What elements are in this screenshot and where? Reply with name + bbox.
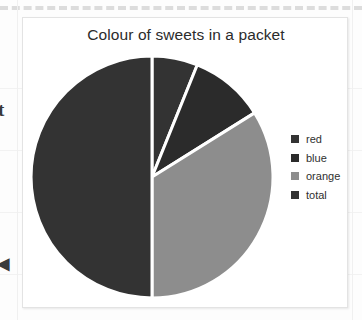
pie-slice-total[interactable] [31, 56, 152, 298]
legend-label: total [306, 189, 327, 201]
dashed-separator-rule [0, 6, 362, 10]
legend-swatch-total [291, 191, 299, 199]
legend-swatch-orange [291, 172, 299, 180]
margin-letter-glyph: t [0, 100, 4, 119]
legend-item-red[interactable]: red [291, 130, 348, 149]
pie-chart-plot-area [31, 56, 273, 302]
legend-item-total[interactable]: total [291, 186, 348, 205]
faint-margin-rule [17, 0, 18, 320]
chart-legend: redblueorangetotal [291, 130, 348, 204]
legend-label: blue [306, 152, 327, 164]
margin-arrow-icon: ◀ [0, 256, 9, 272]
legend-item-orange[interactable]: orange [291, 167, 348, 186]
legend-swatch-red [291, 135, 299, 143]
legend-swatch-blue [291, 154, 299, 162]
chart-title: Colour of sweets in a packet [23, 26, 348, 44]
pie-slices [31, 56, 273, 298]
legend-item-blue[interactable]: blue [291, 149, 348, 168]
pie-chart-panel: Colour of sweets in a packet redblueoran… [22, 17, 348, 308]
faint-margin-rule [352, 0, 353, 320]
pie-chart-svg [31, 56, 273, 302]
legend-label: orange [306, 170, 340, 182]
legend-label: red [306, 133, 322, 145]
